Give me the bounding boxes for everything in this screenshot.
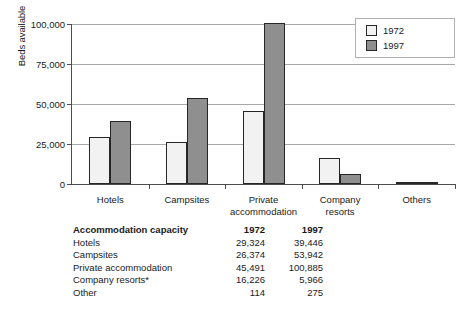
legend-item-1997: 1997 (366, 38, 454, 53)
bar-1997-0 (110, 121, 131, 184)
x-axis-label-4: Others (378, 194, 455, 206)
cell-1972: 45,491 (207, 262, 265, 275)
x-axis-label-0: Hotels (72, 194, 149, 206)
bar-chart-figure: Beds available 025,00050,00075,000100,00… (0, 0, 470, 218)
bar-1997-3 (340, 174, 361, 184)
row-label: Other (73, 287, 207, 300)
bar-1972-3 (319, 158, 340, 184)
row-label: Campsites (73, 249, 207, 262)
y-tick-label: 0 (60, 179, 65, 190)
cell-1997: 5,966 (265, 274, 323, 287)
y-tick-label: 25,000 (36, 139, 65, 150)
x-tick-mark (302, 184, 303, 189)
y-tick-mark (67, 184, 72, 185)
y-axis-title: Beds available (16, 0, 30, 86)
cell-1997: 53,942 (265, 249, 323, 262)
table-header-row: Accommodation capacity 1972 1997 (73, 224, 323, 237)
y-tick-label: 50,000 (36, 99, 65, 110)
x-axis-label-3: Company resorts (302, 194, 379, 217)
x-tick-mark (225, 184, 226, 189)
x-axis-line (71, 184, 455, 185)
y-tick-mark (67, 144, 72, 145)
y-tick-label: 75,000 (36, 59, 65, 70)
y-tick-mark (67, 104, 72, 105)
row-label: Hotels (73, 237, 207, 250)
cell-1997: 275 (265, 287, 323, 300)
cell-1997: 100,885 (265, 262, 323, 275)
cell-1972: 114 (207, 287, 265, 300)
bar-1972-1 (166, 142, 187, 184)
bar-1997-4 (417, 182, 438, 184)
x-tick-mark (149, 184, 150, 189)
x-tick-mark (378, 184, 379, 189)
bar-1997-2 (264, 23, 285, 184)
table-body: Hotels29,32439,446Campsites26,37453,942P… (73, 237, 323, 300)
cell-1972: 29,324 (207, 237, 265, 250)
bar-1972-0 (89, 137, 110, 184)
y-tick-mark (67, 64, 72, 65)
legend-item-1972: 1972 (366, 23, 454, 38)
bar-1972-4 (396, 182, 417, 184)
legend-swatch-icon-1997 (366, 40, 377, 51)
legend-label: 1997 (383, 40, 404, 51)
cell-1972: 26,374 (207, 249, 265, 262)
row-label: Private accommodation (73, 262, 207, 275)
table-row: Private accommodation45,491100,885 (73, 262, 323, 275)
x-axis-label-1: Campsites (149, 194, 226, 206)
y-tick-mark (67, 24, 72, 25)
chart-legend: 19721997 (355, 18, 455, 58)
x-tick-mark (455, 184, 456, 189)
x-axis-label-2: Private accommodation (225, 194, 302, 217)
table-row: Company resorts*16,2265,966 (73, 274, 323, 287)
table-header-1972: 1972 (207, 224, 265, 237)
bar-1972-2 (243, 111, 264, 184)
table-row: Campsites26,37453,942 (73, 249, 323, 262)
cell-1972: 16,226 (207, 274, 265, 287)
table-header-1997: 1997 (265, 224, 323, 237)
row-label: Company resorts* (73, 274, 207, 287)
accommodation-capacity-table: Accommodation capacity 1972 1997 Hotels2… (73, 224, 323, 300)
legend-swatch-icon-1972 (366, 25, 377, 36)
table-header-title: Accommodation capacity (73, 224, 207, 237)
y-tick-label: 100,000 (31, 19, 65, 30)
table-row: Other114275 (73, 287, 323, 300)
table-row: Hotels29,32439,446 (73, 237, 323, 250)
legend-label: 1972 (383, 25, 404, 36)
cell-1997: 39,446 (265, 237, 323, 250)
bar-1997-1 (187, 98, 208, 184)
